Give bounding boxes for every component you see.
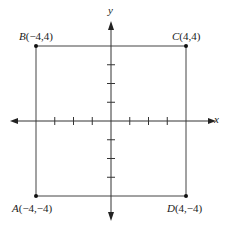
point-c-dot [184, 44, 188, 48]
point-c-label: C(4,4) [172, 30, 200, 42]
point-a-label: A(−4,−4) [12, 202, 52, 214]
y-axis-down-arrow-icon [108, 212, 114, 221]
x-axis-left-arrow-icon [10, 118, 18, 124]
y-axis-up-arrow-icon [108, 21, 114, 30]
y-axis-label: y [108, 4, 113, 16]
point-d-label: D(4,−4) [167, 202, 202, 214]
point-d-dot [184, 194, 188, 198]
point-b-label: B(−4,4) [19, 30, 53, 42]
coordinate-diagram: y x B(−4,4) C(4,4) A(−4,−4) D(4,−4) [0, 0, 227, 226]
point-b-dot [34, 44, 38, 48]
x-axis-label: x [214, 113, 219, 125]
point-a-dot [34, 194, 38, 198]
